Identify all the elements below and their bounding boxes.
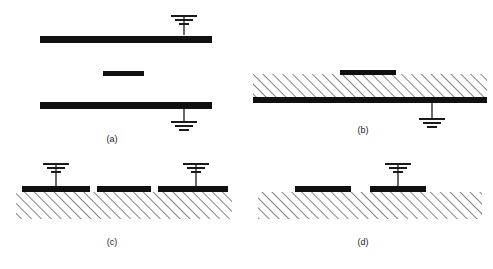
ground-bar bbox=[47, 167, 65, 169]
dielectric-substrate bbox=[16, 192, 232, 219]
ground-bar bbox=[175, 125, 193, 127]
ground-bar bbox=[423, 122, 441, 124]
panel-label-a: (a) bbox=[107, 134, 118, 144]
right-ground-strip bbox=[158, 186, 228, 192]
right-ground-strip bbox=[370, 186, 426, 192]
ground-bar bbox=[171, 15, 197, 17]
ground-bar bbox=[171, 121, 197, 123]
bottom-ground-plane bbox=[40, 102, 212, 109]
ground-bar bbox=[389, 167, 407, 169]
ground-bar bbox=[179, 23, 189, 25]
ground-bar bbox=[419, 118, 445, 120]
dielectric-substrate bbox=[258, 192, 482, 219]
panel-label-c: (c) bbox=[107, 237, 118, 247]
ground-bar bbox=[385, 163, 411, 165]
transmission-line-cross-sections-figure: (a)(b)(c)(d) bbox=[0, 0, 493, 269]
signal-strip bbox=[340, 70, 396, 75]
left-ground-strip bbox=[22, 186, 90, 192]
panel-label-b: (b) bbox=[358, 125, 369, 135]
ground-bar bbox=[179, 129, 189, 131]
ground-bar bbox=[393, 171, 403, 173]
ground-bar bbox=[51, 171, 61, 173]
ground-bar bbox=[187, 167, 205, 169]
left-signal-strip bbox=[295, 186, 351, 192]
ground-bar bbox=[183, 163, 209, 165]
ground-plane bbox=[253, 97, 487, 103]
ground-bar bbox=[175, 19, 193, 21]
ground-bar bbox=[427, 126, 437, 128]
dielectric-substrate bbox=[253, 74, 487, 98]
panel-label-d: (d) bbox=[358, 237, 369, 247]
ground-bar bbox=[191, 171, 201, 173]
center-strip bbox=[103, 71, 144, 76]
center-signal-strip bbox=[97, 186, 151, 192]
top-ground-plane bbox=[40, 36, 212, 43]
figure-canvas: (a)(b)(c)(d) bbox=[0, 0, 493, 269]
ground-bar bbox=[43, 163, 69, 165]
